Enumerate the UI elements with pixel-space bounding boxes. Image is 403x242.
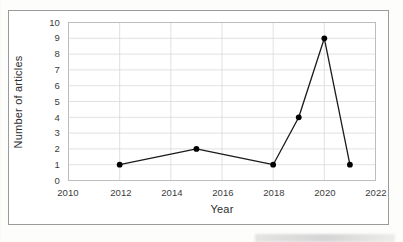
data-point (296, 114, 302, 120)
data-point (347, 162, 353, 168)
data-point (321, 35, 327, 41)
data-point (270, 162, 276, 168)
data-point (117, 162, 123, 168)
line-chart: 10 9 8 7 6 5 4 3 2 1 0 2010 2012 2014 20… (0, 0, 403, 242)
data-point (194, 146, 200, 152)
plot-svg (0, 0, 403, 242)
gridlines (69, 23, 376, 181)
